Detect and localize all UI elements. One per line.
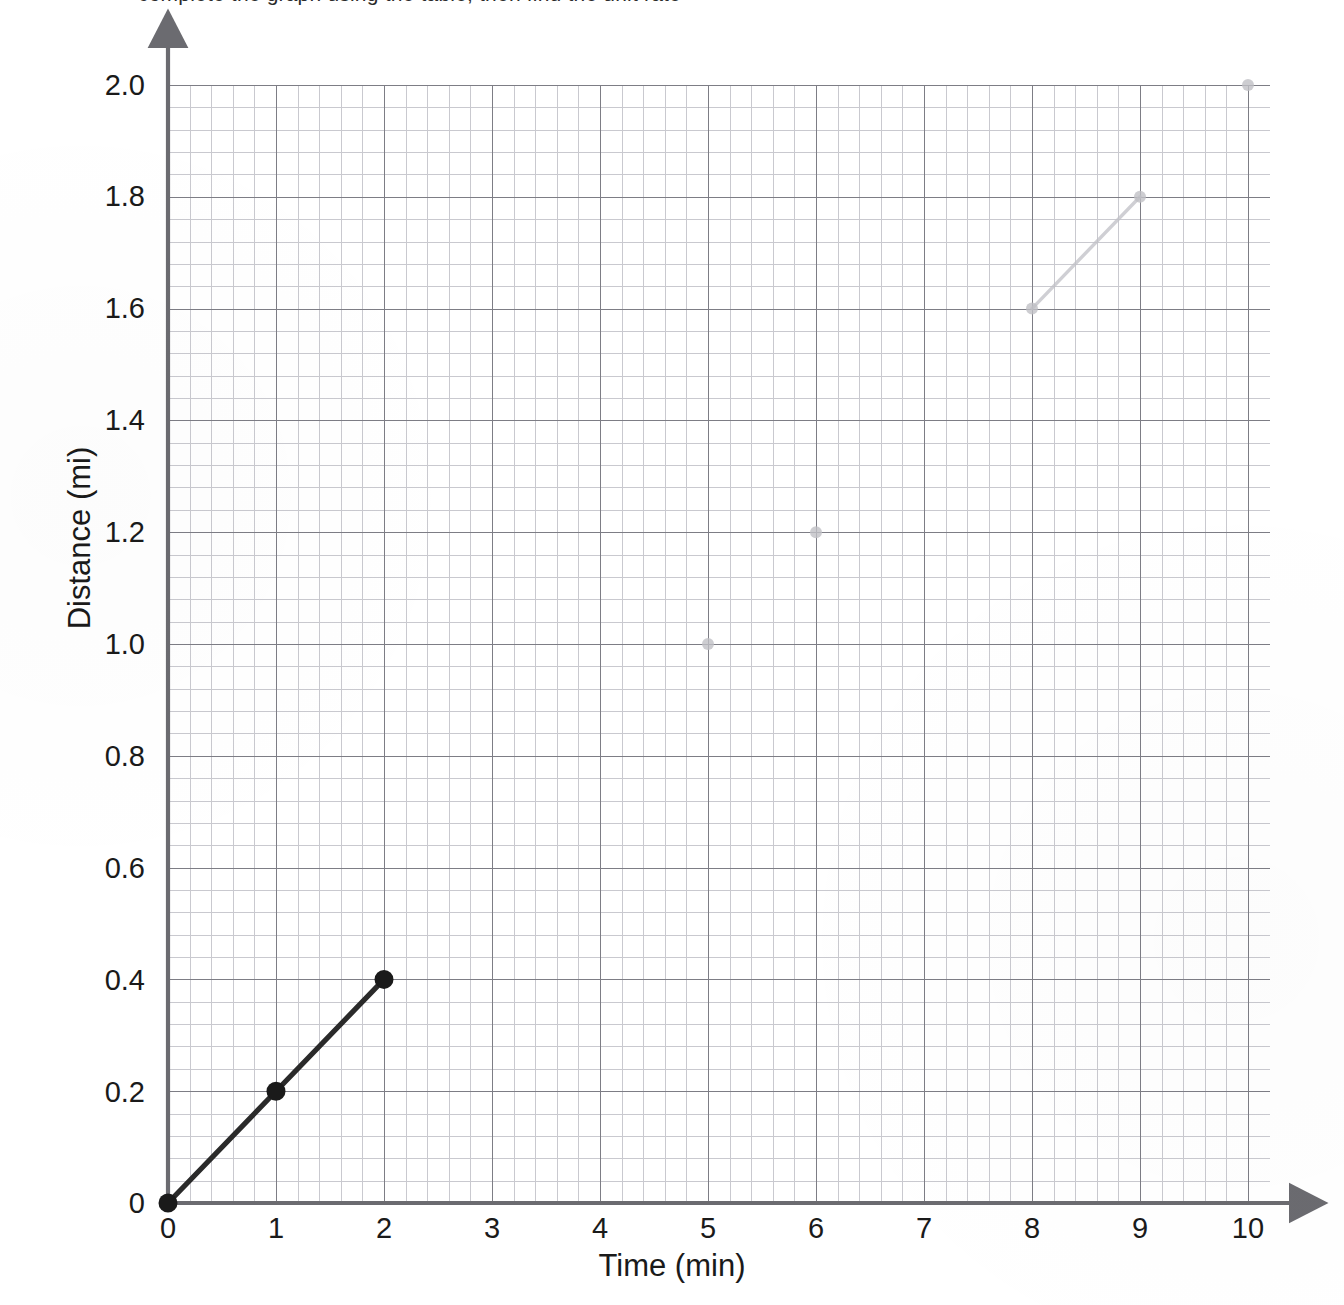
x-tick-label: 2 (376, 1212, 392, 1245)
erased-pencil-marks (702, 79, 1254, 650)
x-tick-label: 10 (1232, 1212, 1264, 1245)
distance-time-chart (0, 0, 1344, 1305)
x-tick-label: 5 (700, 1212, 716, 1245)
x-tick-label: 9 (1132, 1212, 1148, 1245)
x-tick-label: 7 (916, 1212, 932, 1245)
x-tick-label: 3 (484, 1212, 500, 1245)
x-tick-label: 6 (808, 1212, 824, 1245)
y-tick-label: 2.0 (60, 69, 145, 102)
x-tick-label: 4 (592, 1212, 608, 1245)
y-tick-label: 0.2 (60, 1076, 145, 1109)
chart-svg (0, 0, 1344, 1305)
y-tick-label: 1.8 (60, 180, 145, 213)
x-tick-label: 8 (1024, 1212, 1040, 1245)
y-tick-label: 0.4 (60, 964, 145, 997)
x-tick-label: 1 (268, 1212, 284, 1245)
y-tick-label: 0 (60, 1187, 145, 1220)
y-tick-label: 1.6 (60, 292, 145, 325)
y-axis-title: Distance (mi) (62, 398, 98, 678)
x-tick-label: 0 (160, 1212, 176, 1245)
x-axis-title: Time (min) (0, 1248, 1344, 1284)
major-gridlines (168, 85, 1270, 1204)
y-tick-label: 0.6 (60, 852, 145, 885)
graph-page: complete the graph using the table, then… (0, 0, 1344, 1305)
y-tick-label: 0.8 (60, 740, 145, 773)
